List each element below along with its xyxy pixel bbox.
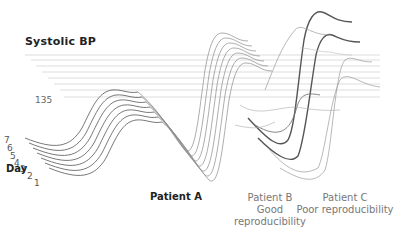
chart-title: Systolic BP — [25, 36, 96, 47]
day-label-1: 1 — [34, 178, 40, 188]
patient-c-traces — [235, 12, 380, 180]
patient-c-subtitle: Poor reproducibility — [290, 204, 398, 216]
day-label-7: 7 — [4, 135, 10, 145]
patient-a-label: Patient A — [150, 192, 202, 202]
y-tick-135: 135 — [35, 96, 52, 105]
patient-c-label: Patient C — [290, 192, 398, 204]
day-label-2: 2 — [27, 171, 33, 181]
patient-c-caption: Patient C Poor reproducibility — [290, 192, 398, 216]
day-axis-label: Day — [6, 164, 27, 174]
